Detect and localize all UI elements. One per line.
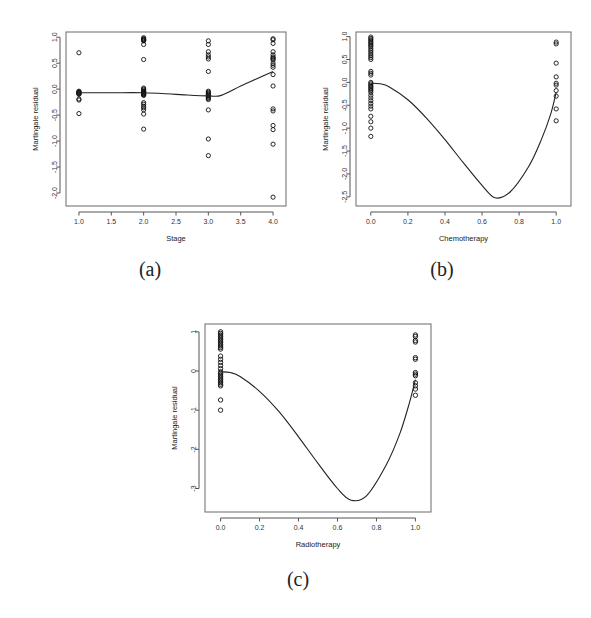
x-tick-label: 2.0 [139, 218, 149, 225]
y-tick-label: -2 [190, 446, 197, 452]
data-point [206, 69, 210, 73]
x-tick-label: 0.6 [477, 218, 487, 225]
data-point [142, 127, 146, 131]
y-tick-label: -1.0 [51, 135, 58, 147]
x-axis: 0.00.20.40.60.81.0Chemotherapy [366, 212, 561, 243]
x-tick-label: 0.8 [514, 218, 524, 225]
data-point [206, 154, 210, 158]
y-tick-label: 0.5 [51, 58, 58, 68]
data-point [142, 57, 146, 61]
smoother-line [79, 71, 273, 96]
panel-c-caption: (c) [268, 568, 328, 591]
y-axis: 10-1-2-3Martingale residual [170, 330, 199, 492]
x-tick-label: 1.0 [74, 218, 84, 225]
x-tick-label: 1.0 [411, 524, 421, 531]
data-point [77, 111, 81, 115]
x-tick-label: 3.5 [236, 218, 246, 225]
data-points [369, 35, 559, 139]
figure-root: 1.01.52.02.53.03.54.0Stage1.00.50.0-0.5-… [0, 0, 591, 618]
data-point [554, 75, 558, 79]
x-tick-label: 4.0 [268, 218, 278, 225]
data-point [218, 398, 222, 402]
y-tick-label: -0.5 [51, 109, 58, 121]
data-point [271, 123, 275, 127]
x-tick-label: 0.8 [372, 524, 382, 531]
y-tick-label: -1.5 [341, 145, 348, 157]
data-point [77, 51, 81, 55]
x-tick-label: 0.2 [403, 218, 413, 225]
plot-canvas: 0.00.20.40.60.81.0Radiotherapy10-1-2-3Ma… [155, 312, 445, 562]
data-point [271, 128, 275, 132]
x-axis: 1.01.52.02.53.03.54.0Stage [74, 212, 278, 243]
data-point [369, 126, 373, 130]
panel-c-radiotherapy-plot: 0.00.20.40.60.81.0Radiotherapy10-1-2-3Ma… [155, 312, 445, 562]
x-tick-label: 0.0 [216, 524, 226, 531]
x-tick-label: 0.4 [294, 524, 304, 531]
data-point [554, 61, 558, 65]
x-axis-title: Radiotherapy [296, 540, 341, 549]
panel-a-caption: (a) [120, 258, 180, 281]
data-point [142, 112, 146, 116]
x-axis-title: Chemotherapy [439, 234, 488, 243]
x-tick-label: 0.6 [333, 524, 343, 531]
data-point [554, 107, 558, 111]
data-point [369, 134, 373, 138]
plot-canvas: 1.01.52.02.53.03.54.0Stage1.00.50.0-0.5-… [18, 22, 298, 252]
data-point [206, 137, 210, 141]
x-tick-label: 2.5 [171, 218, 181, 225]
data-point [271, 72, 275, 76]
data-point [218, 408, 222, 412]
y-tick-label: 1 [190, 330, 197, 334]
data-point [554, 119, 558, 123]
plot-frame [66, 32, 286, 206]
x-tick-label: 1.0 [551, 218, 561, 225]
panel-a-stage-plot: 1.01.52.02.53.03.54.0Stage1.00.50.0-0.5-… [18, 22, 298, 252]
data-point [413, 393, 417, 397]
x-tick-label: 3.0 [203, 218, 213, 225]
data-point [206, 108, 210, 112]
y-tick-label: -0.5 [341, 99, 348, 111]
data-point [554, 89, 558, 93]
x-tick-label: 0.0 [366, 218, 376, 225]
x-axis-title: Stage [166, 234, 186, 243]
y-tick-label: -1 [190, 407, 197, 413]
y-axis: 1.00.50.0-0.5-1.0-1.5-2.0-2.5Martingale … [321, 32, 350, 203]
y-tick-label: 0 [190, 369, 197, 373]
data-point [369, 107, 373, 111]
smoother-line [221, 372, 416, 501]
smoother-line [371, 83, 556, 198]
x-tick-label: 1.5 [106, 218, 116, 225]
panel-b-caption: (b) [412, 258, 472, 281]
y-tick-label: 0.5 [341, 55, 348, 65]
y-axis-title: Martingale residual [170, 386, 179, 450]
y-tick-label: -2.0 [51, 187, 58, 199]
y-tick-label: 1.0 [51, 32, 58, 42]
data-point [369, 120, 373, 124]
data-point [369, 114, 373, 118]
y-tick-label: -1.0 [341, 122, 348, 134]
y-tick-label: 0.0 [341, 77, 348, 87]
data-point [271, 195, 275, 199]
panel-b-chemotherapy-plot: 0.00.20.40.60.81.0Chemotherapy1.00.50.0-… [308, 22, 583, 252]
y-tick-label: -2.0 [341, 168, 348, 180]
plot-canvas: 0.00.20.40.60.81.0Chemotherapy1.00.50.0-… [308, 22, 583, 252]
y-axis: 1.00.50.0-0.5-1.0-1.5-2.0Martingale resi… [31, 32, 60, 199]
data-points [77, 36, 275, 200]
y-tick-label: -1.5 [51, 161, 58, 173]
y-tick-label: -2.5 [341, 191, 348, 203]
y-tick-label: 0.0 [51, 84, 58, 94]
y-tick-label: -3 [190, 485, 197, 491]
x-tick-label: 0.2 [255, 524, 265, 531]
data-points [218, 330, 417, 413]
y-axis-title: Martingale residual [321, 87, 330, 151]
y-axis-title: Martingale residual [31, 87, 40, 151]
x-tick-label: 0.4 [440, 218, 450, 225]
y-tick-label: 1.0 [341, 32, 348, 42]
data-point [271, 142, 275, 146]
data-point [271, 84, 275, 88]
plot-frame [356, 32, 571, 206]
x-axis: 0.00.20.40.60.81.0Radiotherapy [216, 518, 421, 549]
plot-frame [205, 324, 431, 512]
